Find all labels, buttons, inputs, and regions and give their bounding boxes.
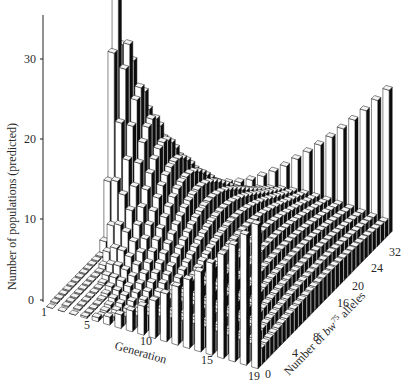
bar-face (266, 340, 269, 360)
bar-face (201, 269, 204, 352)
bar (160, 289, 169, 342)
bar (217, 250, 226, 359)
bar-face (195, 270, 201, 352)
bar (183, 275, 192, 349)
bar-face (252, 223, 258, 369)
bar-face (278, 325, 281, 348)
bar-face (190, 277, 193, 349)
bar-face (381, 222, 384, 242)
bar-face (373, 229, 376, 251)
z-axis: 0 10 20 30 Number of populations (predic… (5, 15, 43, 307)
bar-face (58, 307, 67, 312)
bar (172, 282, 181, 345)
bar-face (167, 291, 170, 342)
bar (69, 310, 78, 315)
y-tick-32: 32 (389, 245, 401, 259)
z-tick-0: 0 (28, 293, 34, 307)
bar (195, 267, 204, 352)
x-tick-1: 1 (41, 305, 47, 319)
bar-face (328, 271, 331, 297)
bar-face (307, 293, 310, 319)
bar-face (311, 288, 314, 314)
bar (229, 240, 238, 362)
bar-face (348, 251, 351, 276)
bar (46, 303, 55, 308)
bar-face (299, 302, 302, 327)
bar (103, 312, 112, 325)
bar (371, 96, 380, 231)
bar-face (178, 284, 181, 346)
bar-face (366, 108, 369, 228)
bar (149, 296, 158, 339)
bar-face (344, 255, 347, 281)
bar-face (183, 278, 189, 349)
bar-face (224, 252, 227, 359)
bar-face (340, 259, 343, 285)
y-tick-24: 24 (371, 261, 383, 275)
bar-face (332, 267, 335, 293)
bar-face (371, 99, 377, 231)
bar (126, 306, 135, 332)
bar-face (336, 263, 339, 289)
bar-face (247, 232, 250, 366)
x-tick-15: 15 (201, 353, 213, 367)
bar-face (258, 222, 261, 369)
bar (138, 301, 147, 335)
z-tick-20: 20 (24, 132, 36, 146)
bar-face (69, 310, 78, 315)
bar-face (389, 87, 392, 234)
bar-face (377, 226, 380, 247)
bar-face (378, 97, 381, 231)
bar-face (149, 299, 155, 338)
x-tick-19: 19 (248, 369, 260, 383)
bar (58, 307, 67, 312)
bar-face (287, 316, 290, 340)
bar (240, 230, 249, 365)
bar-face (319, 279, 322, 305)
bar-face (315, 284, 318, 310)
bar-face (144, 303, 147, 335)
bar-face (217, 253, 223, 359)
bar-face (235, 242, 238, 362)
bar-face (295, 306, 298, 331)
3d-bar-chart: 0 10 20 30 Number of populations (predic… (0, 0, 411, 390)
bar-face (240, 233, 246, 365)
x-tick-5: 5 (84, 318, 90, 332)
z-tick-10: 10 (24, 212, 36, 226)
bar-face (172, 285, 178, 345)
bar-face (274, 330, 277, 352)
bar (115, 310, 124, 329)
bar (383, 85, 392, 234)
bar-face (133, 308, 136, 332)
bar-face (46, 303, 55, 308)
bar-face (115, 313, 121, 328)
bar-face (356, 244, 359, 268)
bar (252, 220, 261, 369)
bar-face (283, 320, 286, 343)
z-tick-30: 30 (24, 52, 36, 66)
bar-face (365, 236, 368, 259)
bar-face (229, 243, 235, 362)
bar-face (270, 335, 273, 356)
bar-face (352, 247, 355, 272)
bar-face (138, 305, 144, 336)
bar-face (303, 297, 306, 323)
bar-face (360, 240, 363, 264)
bar (92, 313, 101, 322)
bar-face (324, 275, 327, 301)
bar-face (126, 309, 132, 332)
bar-face (160, 292, 166, 342)
bar-face (383, 88, 389, 234)
bar-face (369, 233, 372, 256)
bar-face (206, 261, 212, 355)
y-tick-0: 0 (265, 367, 271, 381)
z-axis-label: Number of populations (predicted) (5, 123, 19, 290)
bar-face (155, 298, 158, 339)
bar-face (212, 260, 215, 355)
bar-face (355, 117, 358, 224)
bar (206, 258, 215, 355)
bar-face (291, 311, 294, 335)
